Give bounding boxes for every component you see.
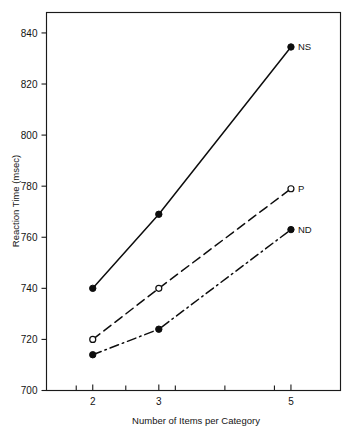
series-marker-ns-3 [156, 211, 162, 217]
series-marker-p-3 [156, 285, 162, 291]
x-tick-label: 2 [90, 396, 96, 407]
series-label-p: P [298, 183, 304, 194]
x-tick-label: 3 [156, 396, 162, 407]
series-marker-nd-3 [156, 326, 162, 332]
y-tick-label: 820 [21, 79, 38, 90]
y-tick-label: 740 [21, 283, 38, 294]
chart-background [0, 0, 351, 433]
series-marker-p-5 [288, 186, 294, 192]
y-tick-label: 780 [21, 181, 38, 192]
y-axis-title: Reaction Time (msec) [10, 155, 21, 247]
x-tick-label: 5 [288, 396, 294, 407]
series-label-ns: NS [298, 41, 311, 52]
x-axis-title: Number of Items per Category [132, 415, 260, 426]
series-marker-ns-2 [90, 285, 96, 291]
y-tick-label: 840 [21, 28, 38, 39]
y-tick-label: 720 [21, 334, 38, 345]
series-marker-nd-5 [288, 226, 294, 232]
reaction-time-line-chart: 700720740760780800820840 235 NSPND React… [0, 0, 351, 433]
y-tick-label: 800 [21, 130, 38, 141]
y-tick-label: 700 [21, 385, 38, 396]
series-marker-p-2 [90, 336, 96, 342]
series-label-nd: ND [298, 224, 312, 235]
series-marker-nd-2 [90, 352, 96, 358]
y-tick-label: 760 [21, 232, 38, 243]
series-marker-ns-5 [288, 44, 294, 50]
figure-container: 700720740760780800820840 235 NSPND React… [0, 0, 351, 433]
